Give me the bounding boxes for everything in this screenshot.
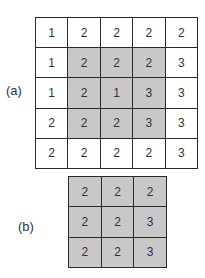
grid-a-cell: 2 [68,138,100,168]
grid-a-cell: 2 [36,108,68,138]
grid-a-cell: 3 [165,48,197,78]
grid-a: 1 2 2 2 2 1 2 2 2 3 1 2 1 3 3 2 2 2 3 3 … [35,17,198,169]
grid-a-cell: 1 [36,48,68,78]
grid-a-row: 1 2 2 2 3 [36,48,198,78]
grid-a-cell-shaded: 2 [133,48,165,78]
grid-a-cell-shaded: 2 [68,108,100,138]
grid-a-cell: 1 [36,78,68,108]
grid-a-cell-shaded: 3 [133,78,165,108]
grid-a-row: 1 2 1 3 3 [36,78,198,108]
grid-b: 2 2 2 2 2 3 2 2 3 [68,176,167,268]
grid-b-cell: 2 [101,177,134,207]
grid-b-cell: 2 [101,237,134,267]
grid-a-cell: 2 [68,18,100,48]
grid-a-cell: 1 [36,18,68,48]
grid-a-cell-shaded: 1 [100,78,132,108]
grid-a-row: 1 2 2 2 2 [36,18,198,48]
grid-a-cell: 2 [133,138,165,168]
grid-a-cell: 2 [36,138,68,168]
grid-b-cell: 2 [69,177,102,207]
grid-b-cell: 2 [69,207,102,237]
grid-a-cell-shaded: 2 [68,48,100,78]
grid-a-cell-shaded: 2 [100,108,132,138]
grid-a-cell-shaded: 2 [100,48,132,78]
grid-b-row: 2 2 2 [69,177,167,207]
figure-a-label: (a) [6,83,22,98]
grid-a-row: 2 2 2 2 3 [36,138,198,168]
grid-b-cell: 3 [134,237,167,267]
grid-a-cell: 3 [165,138,197,168]
grid-a-cell-shaded: 2 [68,78,100,108]
grid-a-cell: 2 [100,18,132,48]
grid-b-row: 2 2 3 [69,207,167,237]
grid-b-cell: 2 [69,237,102,267]
grid-b-row: 2 2 3 [69,237,167,267]
figure-b-label: (b) [18,219,34,234]
grid-a-cell: 2 [100,138,132,168]
grid-a-cell: 3 [165,108,197,138]
grid-a-cell: 2 [165,18,197,48]
grid-a-cell: 2 [133,18,165,48]
grid-a-row: 2 2 2 3 3 [36,108,198,138]
grid-b-cell: 2 [101,207,134,237]
grid-a-cell: 3 [165,78,197,108]
grid-a-cell-shaded: 3 [133,108,165,138]
grid-b-cell: 3 [134,207,167,237]
grid-b-cell: 2 [134,177,167,207]
